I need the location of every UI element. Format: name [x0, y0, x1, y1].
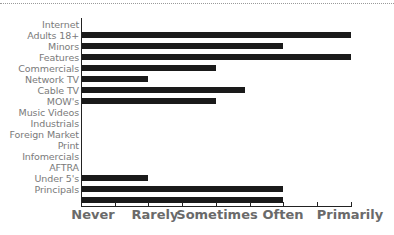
- bar-network-tv: [82, 76, 148, 82]
- bar-aftra: [82, 175, 148, 181]
- y-label-minors: Minors: [48, 41, 79, 52]
- x-label-often: Often: [263, 207, 304, 222]
- bar-features: [82, 54, 351, 60]
- y-label-adults-18: Adults 18+: [27, 30, 79, 41]
- frequency-bar-chart: Internet Adults 18+ Minors Features Comm…: [0, 0, 394, 235]
- y-label-cable-tv: Cable TV: [38, 85, 80, 96]
- x-label-primarily: Primarily: [317, 207, 384, 222]
- y-label-network-tv: Network TV: [25, 74, 79, 85]
- y-label-principals: Principals: [35, 184, 79, 195]
- bar-adults-18: [82, 32, 351, 38]
- y-label-internet: Internet: [42, 19, 79, 30]
- x-tick: [115, 202, 116, 207]
- y-label-mows: MOW's: [47, 96, 79, 107]
- x-label-rarely: Rarely: [132, 207, 179, 222]
- y-label-industrials: Industrials: [31, 118, 79, 129]
- bar-under-5s: [82, 186, 283, 192]
- y-label-foreign-market: Foreign Market: [10, 129, 79, 140]
- y-label-print: Print: [58, 140, 79, 151]
- y-label-infomercials: Infomercials: [22, 151, 79, 162]
- bar-commercials: [82, 65, 216, 71]
- y-label-music-videos: Music Videos: [19, 107, 79, 118]
- bar-mows: [82, 98, 216, 104]
- bar-cable-tv: [82, 87, 245, 93]
- y-label-aftra: AFTRA: [49, 162, 79, 173]
- x-label-never: Never: [71, 207, 114, 222]
- y-label-commercials: Commercials: [18, 63, 79, 74]
- bar-minors: [82, 43, 283, 49]
- y-label-under-5s: Under 5's: [35, 173, 79, 184]
- y-label-features: Features: [39, 52, 79, 63]
- x-label-sometimes: Sometimes: [176, 207, 257, 222]
